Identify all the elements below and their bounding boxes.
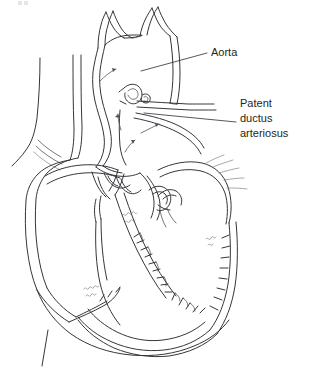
leader-lines (141, 53, 236, 122)
mitral-valve (140, 173, 176, 227)
left-atrium (158, 155, 247, 224)
label-aorta: Aorta (211, 46, 238, 58)
aortic-arch (93, 35, 180, 167)
superior-vena-cava (70, 55, 82, 160)
figure-container: Aorta Patent ductus arteriosus (0, 0, 311, 369)
label-pda-line-1: Patent (240, 97, 272, 109)
label-pda-line-2: ductus (240, 112, 273, 124)
interventricular-septum (115, 193, 176, 298)
flow-arrows (100, 68, 159, 152)
right-ventricle (69, 219, 120, 325)
corner-artifact (18, 1, 28, 5)
right-atrium (25, 158, 120, 322)
leader-line-pda (144, 113, 236, 122)
label-pda-line-3: arteriosus (240, 127, 289, 139)
pulmonary-artery (119, 101, 216, 165)
leader-line-aorta (141, 53, 207, 71)
aortic-arch-branches (98, 7, 177, 48)
aortic-valve (92, 166, 141, 199)
arrow-pda-shunt-left (115, 114, 121, 130)
heart-anatomy-illustration: Aorta Patent ductus arteriosus (0, 0, 311, 369)
arrow-ascending-aorta (100, 68, 116, 81)
labels: Aorta Patent ductus arteriosus (211, 46, 289, 139)
arrow-pulmonary-lower (125, 140, 135, 152)
arrow-pulmonary-right (141, 123, 159, 133)
thorax-outline (12, 58, 62, 366)
